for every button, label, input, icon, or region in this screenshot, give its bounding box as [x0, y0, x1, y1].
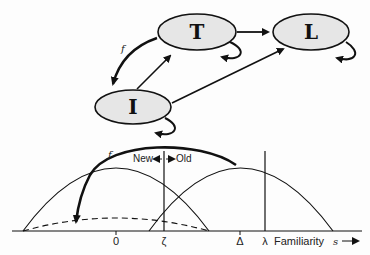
- self-loop-i: [156, 118, 175, 134]
- tick-label-lambda: λ: [262, 235, 268, 247]
- edge-i-to-t: [137, 56, 170, 89]
- node-i-label: I: [128, 95, 137, 119]
- node-t-label: T: [190, 20, 205, 44]
- axis-label: Familiarity: [274, 235, 325, 247]
- tick-label-delta: Δ: [236, 235, 244, 247]
- edge-t-to-i-f: [113, 38, 157, 84]
- node-t: T: [158, 14, 236, 50]
- curve-new: [23, 168, 209, 231]
- figure: f T L I New Old f 0 ζ Δ λ Familiarity s: [0, 0, 370, 255]
- f-transition-arc: [76, 147, 236, 222]
- node-l-label: L: [304, 20, 318, 44]
- node-i: I: [95, 90, 171, 124]
- curve-old: [149, 168, 333, 231]
- axis-variable: s: [333, 236, 338, 247]
- old-label: Old: [176, 153, 192, 164]
- diagram-canvas: f T L I New Old f 0 ζ Δ λ Familiarity s: [0, 0, 370, 255]
- tick-label-zeta: ζ: [162, 235, 167, 247]
- node-l: L: [273, 14, 349, 50]
- f-arc-label: f: [107, 149, 114, 160]
- curve-dashed: [23, 218, 209, 231]
- tick-label-0: 0: [113, 235, 119, 247]
- edge-f-label: f: [120, 43, 127, 54]
- new-label: New: [133, 153, 154, 164]
